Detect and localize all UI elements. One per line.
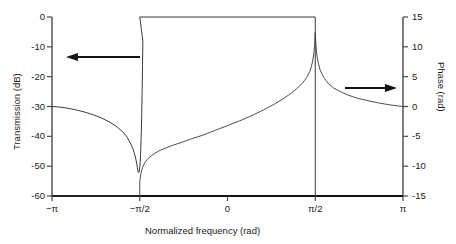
figure-container: Transmission (dB) Phase (rad) Normalized… [0,0,456,244]
left-tick-label: -40 [4,131,45,141]
x-axis-title: Normalized frequency (rad) [145,226,260,236]
right-tick-label: 5 [412,72,442,82]
axis-lines [52,17,403,196]
left-tick-label: -60 [4,191,45,201]
left-tick-label: 0 [4,12,45,22]
right-tick-label: -10 [412,161,442,171]
left-tick-label: -50 [4,161,45,171]
right-tick-label: 10 [412,42,442,52]
x-tick-label: −π [32,204,72,214]
right-arrow-annotation [345,84,397,92]
x-tick-label: −π/2 [120,204,160,214]
left-axis-ticks [47,17,52,196]
x-tick-label: π/2 [295,204,335,214]
x-tick-label: 0 [208,204,248,214]
right-tick-label: 15 [412,12,442,22]
right-tick-label: -15 [412,191,442,201]
x-tick-label: π [383,204,423,214]
left-arrow-annotation [66,53,140,61]
right-tick-label: -5 [412,131,442,141]
left-tick-label: -10 [4,42,45,52]
left-tick-label: -20 [4,72,45,82]
left-tick-label: -30 [4,102,45,112]
right-axis-ticks [403,17,408,196]
transmission-curve [52,17,315,196]
right-tick-label: 0 [412,102,442,112]
